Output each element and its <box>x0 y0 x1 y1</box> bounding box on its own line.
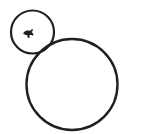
two-circles-drawing: Two overlapping circle outlines line dra… <box>0 0 141 134</box>
diagram-canvas: Two overlapping circle outlines line dra… <box>0 0 141 134</box>
canvas-background <box>0 0 141 134</box>
